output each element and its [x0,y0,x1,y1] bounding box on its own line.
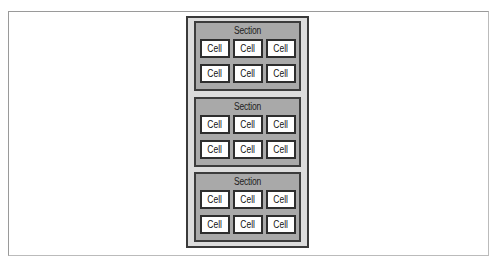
cell: Cell [233,140,263,159]
cell: Cell [266,190,296,209]
cell: Cell [233,215,263,234]
cell: Cell [266,140,296,159]
section-title: Section [204,176,292,187]
cell: Cell [266,64,296,83]
cell: Cell [233,115,263,134]
cell: Cell [200,140,230,159]
section-title: Section [204,101,292,112]
cell: Cell [266,215,296,234]
cell: Cell [200,39,230,58]
section-3: Section Cell Cell Cell Cell Cell Cell [194,172,301,242]
cell: Cell [200,190,230,209]
cell: Cell [233,64,263,83]
cell: Cell [200,115,230,134]
cell: Cell [200,64,230,83]
cell: Cell [266,39,296,58]
section-2: Section Cell Cell Cell Cell Cell Cell [194,97,301,167]
section-title: Section [204,25,292,36]
container-panel: Section Cell Cell Cell Cell Cell Cell Se… [186,16,309,248]
cell: Cell [266,115,296,134]
cell: Cell [233,190,263,209]
cell: Cell [233,39,263,58]
cell: Cell [200,215,230,234]
section-1: Section Cell Cell Cell Cell Cell Cell [194,21,301,91]
